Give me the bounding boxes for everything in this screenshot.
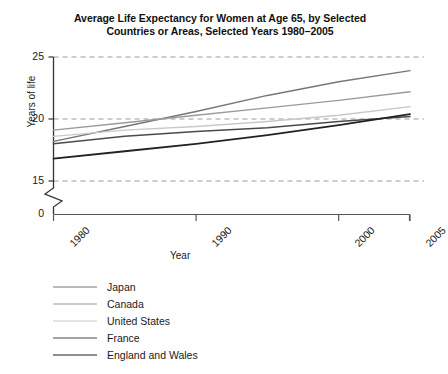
legend-item[interactable]: Canada [53, 295, 313, 312]
chart-title-line-1: Average Life Expectancy for Women at Age… [55, 12, 385, 25]
plot-area [0, 0, 434, 260]
chart-legend: JapanCanadaUnited StatesFranceEngland an… [53, 278, 313, 363]
legend-label: Japan [107, 281, 136, 293]
legend-item[interactable]: Japan [53, 278, 313, 295]
legend-line-swatch [53, 333, 97, 343]
legend-line-swatch [53, 350, 97, 360]
y-tick-label-zero: 0 [20, 207, 44, 219]
legend-label: France [107, 332, 140, 344]
chart-title-line-2: Countries or Areas, Selected Years 1980–… [55, 25, 385, 38]
y-tick-marks [49, 57, 54, 181]
legend-line-swatch [53, 316, 97, 326]
chart-title: Average Life Expectancy for Women at Age… [55, 12, 385, 38]
legend-line-swatch [53, 282, 97, 292]
y-axis-label: Years of life [26, 62, 37, 142]
y-tick-label: 15 [20, 174, 44, 186]
legend-label: England and Wales [107, 349, 198, 361]
axis-break-symbol [45, 181, 62, 214]
data-series [54, 71, 411, 159]
legend-item[interactable]: France [53, 329, 313, 346]
x-tick-marks [54, 215, 411, 222]
legend-item[interactable]: England and Wales [53, 346, 313, 363]
y-tick-label: 25 [20, 50, 44, 62]
legend-item[interactable]: United States [53, 312, 313, 329]
legend-label: United States [107, 315, 170, 327]
legend-line-swatch [53, 299, 97, 309]
legend-label: Canada [107, 298, 144, 310]
y-tick-label: 20 [20, 112, 44, 124]
series-line [54, 71, 411, 142]
x-axis-label: Year [170, 250, 190, 261]
